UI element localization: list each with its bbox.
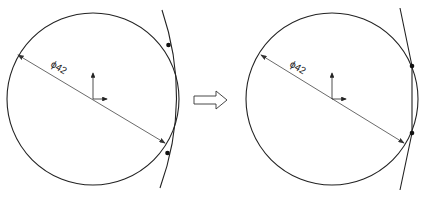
panel-before: ϕ42 xyxy=(7,10,179,188)
diameter-dimension-line[interactable] xyxy=(18,55,165,143)
tangent-point[interactable] xyxy=(410,64,415,69)
intersection-point[interactable] xyxy=(165,151,170,156)
panel-after: ϕ42 xyxy=(246,8,418,190)
transition-arrow-icon xyxy=(194,91,227,109)
tangent-point[interactable] xyxy=(410,131,415,136)
origin-axes-icon xyxy=(93,73,107,99)
diagram-canvas: ϕ42 ϕ42 xyxy=(0,0,424,197)
intersection-point[interactable] xyxy=(166,43,171,48)
spline-curve-before[interactable] xyxy=(160,10,177,188)
tangent-polyline-after[interactable] xyxy=(400,8,412,190)
origin-axes-icon xyxy=(332,73,346,99)
diameter-label[interactable]: ϕ42 xyxy=(49,58,69,76)
cad-sketch-diagram: ϕ42 ϕ42 xyxy=(0,0,424,197)
